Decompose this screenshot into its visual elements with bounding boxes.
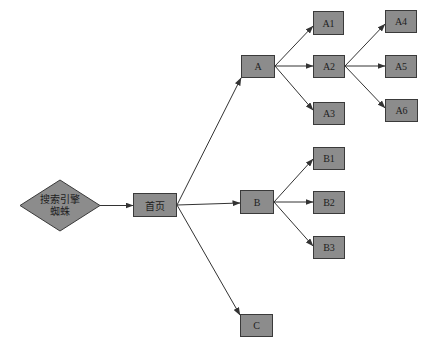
edge-b-b1: [274, 159, 313, 202]
node-b3: B3: [313, 236, 345, 259]
node-b3-label: B3: [323, 242, 335, 253]
node-b2-label: B2: [323, 197, 335, 208]
node-b: B: [240, 190, 274, 214]
node-c-label: C: [253, 320, 260, 331]
edge-home-b: [177, 203, 240, 205]
edge-a-a3: [275, 66, 313, 110]
node-a1-label: A1: [322, 18, 334, 29]
node-a5-label: A5: [395, 61, 407, 72]
edge-home-a: [177, 78, 241, 205]
edge-a-a1: [275, 26, 313, 66]
node-a4-label: A4: [395, 16, 407, 27]
node-c: C: [240, 314, 273, 337]
start-node-search-spider: 搜索引擎 蜘蛛: [20, 180, 100, 231]
node-home-label: 首页: [145, 198, 165, 213]
start-node-line2: 蜘蛛: [50, 206, 70, 218]
node-b2: B2: [313, 191, 345, 214]
start-node-line1: 搜索引擎: [40, 194, 80, 206]
node-b1: B1: [313, 147, 345, 170]
edge-a2-a4: [345, 24, 385, 66]
node-a4: A4: [385, 10, 417, 33]
node-a2-label: A2: [323, 61, 335, 72]
node-a2: A2: [313, 55, 345, 78]
node-a1: A1: [313, 11, 344, 35]
edge-b-b3: [274, 202, 313, 246]
node-a6-label: A6: [395, 105, 407, 116]
edge-a2-a6: [345, 66, 385, 108]
node-b-label: B: [254, 197, 261, 208]
node-a3-label: A3: [323, 108, 335, 119]
node-a-label: A: [254, 61, 261, 72]
node-b1-label: B1: [323, 153, 335, 164]
node-a: A: [241, 55, 275, 78]
diagram-edges: [0, 0, 431, 350]
edge-home-c: [177, 205, 240, 315]
node-a5: A5: [385, 55, 417, 78]
node-home: 首页: [133, 193, 177, 217]
node-a3: A3: [313, 102, 345, 125]
node-a6: A6: [385, 99, 418, 122]
